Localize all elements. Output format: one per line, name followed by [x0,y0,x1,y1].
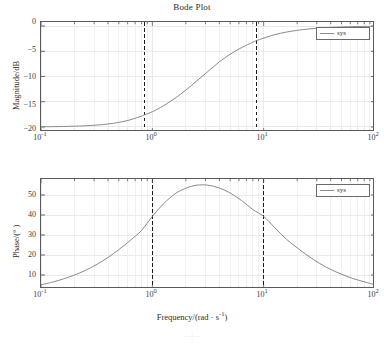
mag-ytick-4: −20 [12,124,36,133]
bottom-artifact: ─┼─ [0,332,384,341]
pha-xtick-3: 102 [367,290,378,299]
frequency-axis-title-base: Frequency/(rad · s [157,312,219,322]
pha-xtick-1: 100 [145,290,156,299]
mag-xtick-3-exp: 2 [375,130,378,137]
pha-xtick-0: 10-1 [33,290,46,299]
mag-xtick-1-exp: 0 [153,130,156,137]
pha-ytick-1: 40 [12,210,36,219]
mag-xtick-0-base: 10 [33,133,41,142]
mag-xtick-0: 10-1 [33,133,46,142]
frequency-axis-title-tail: ) [224,312,227,322]
mag-xtick-2: 101 [256,133,267,142]
legend-line-icon [320,33,334,34]
pha-ytick-4: 10 [12,270,36,279]
pha-xtick-2-exp: 1 [264,287,267,294]
pha-xtick-3-exp: 2 [375,287,378,294]
frequency-axis-title: Frequency/(rad · s-1) [0,312,384,322]
pha-xtick-2-base: 10 [256,290,264,299]
mag-ytick-0: 0 [12,17,36,26]
legend-line-icon [320,190,334,191]
mag-xtick-3: 102 [367,133,378,142]
mag-xtick-0-exp: -1 [41,130,46,137]
pha-xtick-3-base: 10 [367,290,375,299]
pha-xtick-0-exp: -1 [41,287,46,294]
pha-ytick-0: 50 [12,190,36,199]
page-title: Bode Plot [0,2,384,12]
magnitude-legend[interactable]: sys [316,27,370,40]
mag-xtick-2-exp: 1 [264,130,267,137]
mag-xtick-1: 100 [145,133,156,142]
pha-xtick-1-base: 10 [145,290,153,299]
mag-xtick-2-base: 10 [256,133,264,142]
pha-xtick-0-base: 10 [33,290,41,299]
phase-legend[interactable]: sys [316,184,370,197]
bode-plot-figure: Bode Plot 0 −5 −10 −15 −20 10-1 100 101 … [0,0,384,345]
pha-xtick-2: 101 [256,290,267,299]
magnitude-legend-label: sys [337,30,346,37]
mag-xtick-3-base: 10 [367,133,375,142]
phase-axis-title: Phase/(° ) [11,225,21,258]
pha-xtick-1-exp: 0 [153,287,156,294]
magnitude-axis-title: Magnitude/dB [11,61,21,110]
mag-xtick-1-base: 10 [145,133,153,142]
mag-ytick-1: −5 [12,44,36,53]
phase-legend-label: sys [337,187,346,194]
